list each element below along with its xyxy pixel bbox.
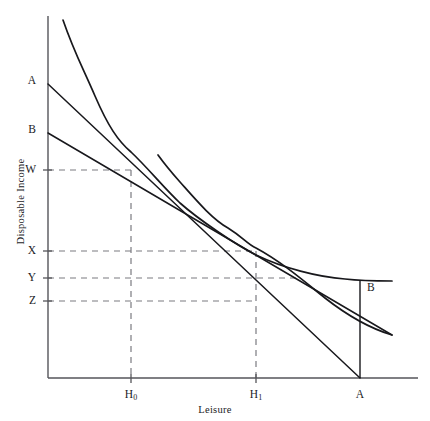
plot-canvas bbox=[0, 0, 430, 421]
x-tick-label-H0: H0 bbox=[111, 388, 151, 400]
y-tick-label-A: A bbox=[14, 74, 36, 86]
indifference-curve-lower bbox=[158, 155, 392, 335]
x-tick-label-H1: H1 bbox=[236, 388, 276, 400]
x-tick-label-A-bottom: A bbox=[340, 388, 380, 400]
x-axis-title: Leisure bbox=[175, 404, 255, 415]
budget-lines-group bbox=[48, 84, 392, 378]
x-tick-H1-sub: 1 bbox=[258, 393, 262, 402]
budget-line-A bbox=[48, 84, 360, 378]
y-tick-label-B: B bbox=[14, 123, 36, 135]
x-tick-H1-base: H bbox=[250, 388, 258, 400]
x-tick-A-base: A bbox=[356, 388, 364, 400]
x-tick-H0-sub: 0 bbox=[133, 393, 137, 402]
y-tick-label-Y: Y bbox=[14, 271, 36, 283]
indifference-curve-figure: A B W X Y Z H0 H1 A B Disposable Income … bbox=[0, 0, 430, 421]
axes-group bbox=[48, 16, 418, 378]
guide-lines-group bbox=[48, 170, 300, 378]
y-axis-title: Disposable Income bbox=[15, 142, 26, 262]
point-label-B: B bbox=[367, 281, 375, 293]
indifference-curves-group bbox=[63, 20, 392, 335]
y-tick-label-Z: Z bbox=[14, 294, 36, 306]
x-tick-H0-base: H bbox=[125, 388, 133, 400]
indifference-curve-upper bbox=[63, 20, 392, 281]
